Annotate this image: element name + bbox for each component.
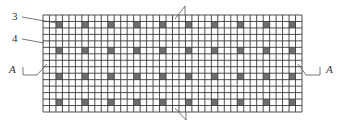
filled-cell [160, 99, 166, 105]
filled-cell [134, 99, 140, 105]
filled-cell [263, 47, 269, 53]
filled-cell [160, 73, 166, 79]
filled-cell [211, 47, 217, 53]
filled-cell [108, 21, 114, 27]
patent-grid-diagram [0, 0, 343, 128]
filled-cell [289, 73, 295, 79]
part-label-3: 3 [12, 11, 18, 22]
filled-cell [82, 21, 88, 27]
filled-cell [56, 73, 62, 79]
filled-cell [263, 99, 269, 105]
filled-cell [185, 73, 191, 79]
filled-cell [82, 47, 88, 53]
filled-cell [211, 99, 217, 105]
leader-line-4 [22, 39, 44, 43]
filled-cell [211, 73, 217, 79]
filled-cell [82, 73, 88, 79]
section-label-right: A [326, 64, 333, 75]
filled-cell [237, 21, 243, 27]
filled-cell [211, 21, 217, 27]
filled-cell [56, 47, 62, 53]
filled-cell [237, 73, 243, 79]
filled-cell [289, 21, 295, 27]
filled-cell [134, 47, 140, 53]
filled-cell [108, 47, 114, 53]
leader-line-3 [22, 17, 56, 23]
section-label-left: A [9, 64, 16, 75]
filled-cell [185, 21, 191, 27]
filled-cell [289, 99, 295, 105]
filled-cell [237, 99, 243, 105]
filled-cell [82, 99, 88, 105]
filled-cell [263, 73, 269, 79]
filled-cell [108, 99, 114, 105]
filled-cell [108, 73, 114, 79]
filled-cell [263, 21, 269, 27]
grid-lines [43, 15, 302, 112]
break-line-bottom [175, 108, 186, 120]
filled-cell [289, 47, 295, 53]
filled-cell [237, 47, 243, 53]
filled-cell [160, 47, 166, 53]
filled-cell [134, 73, 140, 79]
filled-cell [160, 21, 166, 27]
filled-cell [185, 99, 191, 105]
filled-cell [56, 99, 62, 105]
section-bracket-left [23, 67, 37, 75]
annotation-lines [22, 6, 320, 120]
part-label-4: 4 [12, 33, 18, 44]
section-bracket-right [306, 67, 320, 75]
filled-cell [134, 21, 140, 27]
break-line-top [175, 6, 185, 19]
filled-cell [185, 47, 191, 53]
filled-cell [56, 21, 62, 27]
